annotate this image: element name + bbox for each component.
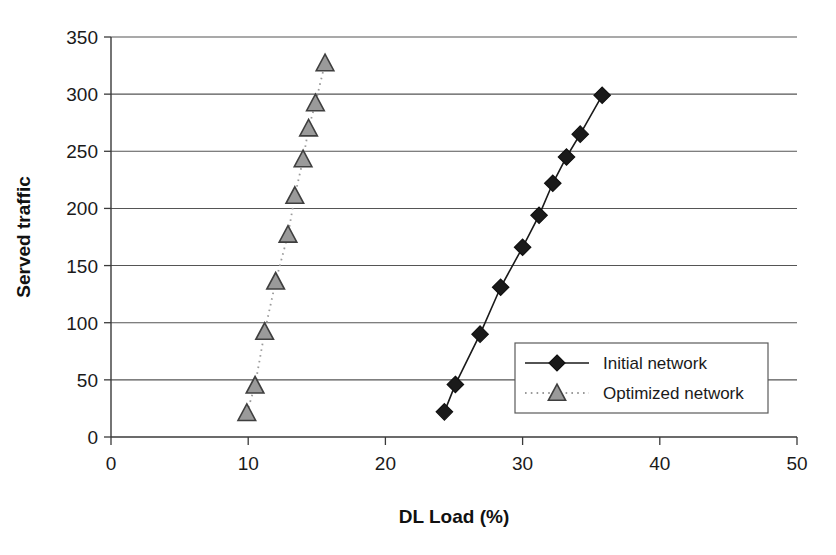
y-tick-label: 0 [87,427,98,448]
x-tick-label: 0 [106,453,117,474]
y-tick-label: 300 [66,84,98,105]
y-tick-label: 150 [66,256,98,277]
y-tick-label: 200 [66,198,98,219]
x-tick-label: 30 [512,453,533,474]
legend-label: Optimized network [603,384,744,403]
y-tick-label: 100 [66,313,98,334]
chart-figure: 050100150200250300350 01020304050 Initia… [0,0,836,555]
line-chart: 050100150200250300350 01020304050 Initia… [0,0,836,555]
legend-group[interactable]: Initial networkOptimized network [515,343,768,413]
x-tick-label: 20 [375,453,396,474]
x-tick-label: 10 [238,453,259,474]
legend-label: Initial network [603,354,707,373]
y-axis-title: Served traffic [13,176,34,298]
x-tick-label: 40 [649,453,670,474]
x-axis-title: DL Load (%) [399,506,509,527]
legend-item-optimized-network[interactable]: Optimized network [525,384,744,403]
y-tick-label: 250 [66,141,98,162]
y-tick-label: 350 [66,27,98,48]
x-tick-label: 50 [786,453,807,474]
y-tick-label: 50 [77,370,98,391]
chart-background [0,0,836,555]
